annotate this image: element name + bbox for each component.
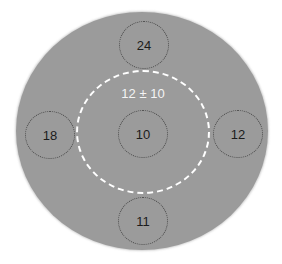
sample-value-left: 18	[43, 128, 57, 143]
sample-value-top: 24	[137, 38, 151, 53]
sampling-diagram: 12 ± 10 24 18 10 12 11	[0, 0, 282, 264]
mean-value-label: 12 ± 10	[100, 86, 186, 101]
sample-circle-top: 24	[119, 21, 169, 69]
sample-circle-left: 18	[25, 111, 75, 159]
sample-circle-center: 10	[118, 110, 168, 158]
sample-circle-right: 12	[213, 110, 263, 158]
sample-value-center: 10	[136, 127, 150, 142]
sample-circle-bottom: 11	[118, 197, 168, 245]
sample-value-right: 12	[231, 127, 245, 142]
sample-value-bottom: 11	[136, 214, 150, 229]
